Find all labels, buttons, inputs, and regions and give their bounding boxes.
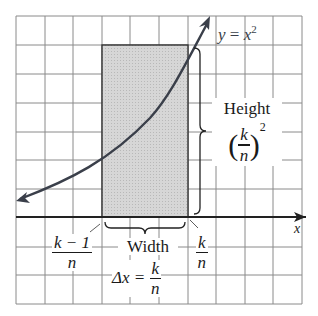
left-tick-den: n <box>68 254 77 271</box>
height-den: n <box>240 147 249 164</box>
curve-label-eq: = <box>226 25 244 44</box>
left-tick-label: k − 1n <box>52 234 92 271</box>
height-num: k <box>238 126 250 143</box>
right-tick-den: n <box>198 254 207 271</box>
curve-label-exp: 2 <box>251 23 257 35</box>
riemann-rectangle <box>102 45 188 217</box>
x-axis-label: x <box>294 222 300 236</box>
height-expression: (kn)2 <box>212 121 282 164</box>
width-brace <box>105 222 185 234</box>
width-den: n <box>151 280 160 297</box>
width-num: k <box>150 260 162 277</box>
height-exp: 2 <box>260 120 266 134</box>
width-label: Width <box>118 238 178 255</box>
curve-equation-label: y = x2 <box>218 24 257 43</box>
right-tick-leader <box>190 220 198 228</box>
left-tick-num: k − 1 <box>52 234 92 251</box>
right-tick-label: kn <box>196 234 208 271</box>
curve-label-y: y <box>218 25 226 44</box>
curve-arrow-left-icon <box>16 192 30 203</box>
width-delta: Δx = <box>112 268 150 287</box>
right-tick-num: k <box>196 234 208 251</box>
height-label: Height (kn)2 <box>212 98 282 166</box>
height-title: Height <box>212 100 282 117</box>
width-title: Width <box>118 238 178 255</box>
width-expression: Δx = kn <box>112 260 161 297</box>
left-tick-leader <box>90 224 100 232</box>
